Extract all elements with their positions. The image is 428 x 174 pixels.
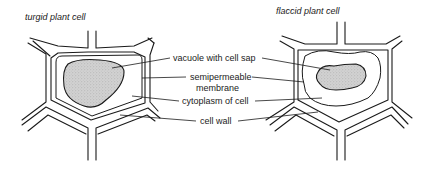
label-cell-wall: cell wall <box>200 116 232 126</box>
flaccid-cell-wall <box>266 22 412 160</box>
label-membrane-line2: membrane <box>196 83 239 93</box>
label-membrane-line1: semipermeable <box>190 72 252 82</box>
flaccid-cell-title: flaccid plant cell <box>276 6 341 16</box>
plant-cell-diagram: turgid plant cell flaccid plant c <box>0 0 428 174</box>
flaccid-cell: flaccid plant cell <box>266 6 412 160</box>
turgid-cell-title: turgid plant cell <box>25 12 87 22</box>
label-vacuole: vacuole with cell sap <box>173 53 256 63</box>
turgid-vacuole <box>64 60 125 108</box>
turgid-cell: turgid plant cell <box>22 12 160 160</box>
label-cytoplasm: cytoplasm of cell <box>182 96 249 106</box>
flaccid-vacuole <box>316 64 366 90</box>
